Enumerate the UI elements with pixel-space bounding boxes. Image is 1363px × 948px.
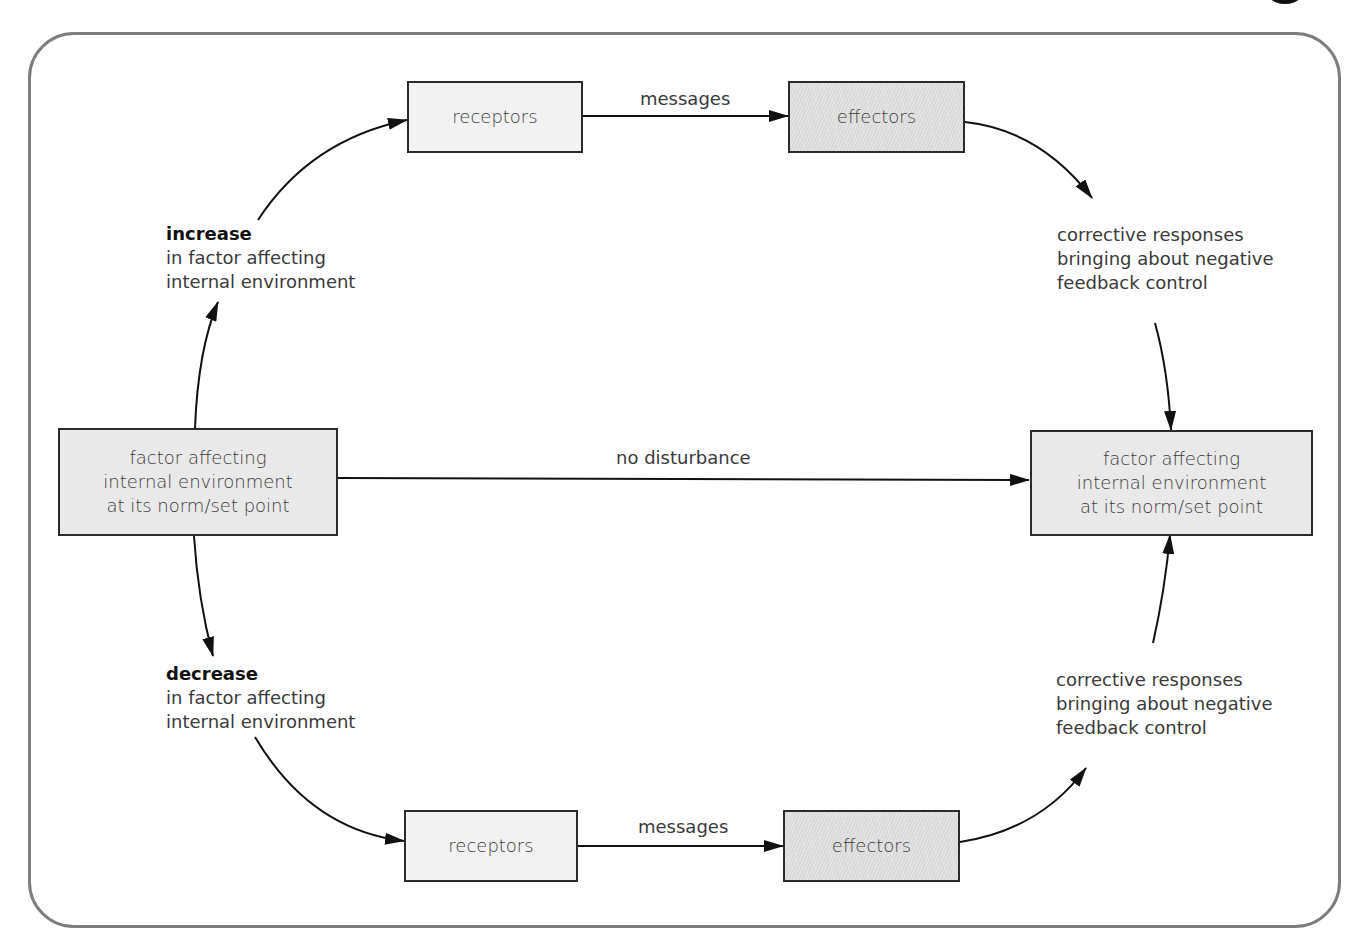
- end-box-line: internal environment: [1077, 471, 1266, 495]
- decrease-line: in factor affecting: [166, 686, 355, 710]
- corrective-response-bottom: corrective responses bringing about nega…: [1056, 668, 1273, 740]
- effectors-label-top: effectors: [837, 105, 916, 129]
- end-box-line: at its norm/set point: [1077, 495, 1266, 519]
- arrow-no-disturbance: [338, 478, 1029, 480]
- arrow-start-to-increase: [195, 302, 218, 428]
- start-box-line: factor affecting: [103, 446, 292, 470]
- decrease-heading: decrease: [166, 662, 355, 686]
- response-line: corrective responses: [1056, 668, 1273, 692]
- no-disturbance-label: no disturbance: [616, 446, 751, 470]
- arrow-decrease-to-receptors: [255, 737, 404, 841]
- effectors-box-top: effectors: [788, 81, 965, 153]
- start-box-line: at its norm/set point: [103, 494, 292, 518]
- messages-label-top: messages: [640, 87, 730, 111]
- corrective-response-top: corrective responses bringing about nega…: [1057, 223, 1274, 295]
- receptors-box-top: receptors: [407, 81, 583, 153]
- end-box-line: factor affecting: [1077, 447, 1266, 471]
- response-line: feedback control: [1057, 271, 1274, 295]
- arrow-response-to-end-bottom: [1153, 535, 1170, 643]
- increase-line: internal environment: [166, 270, 355, 294]
- response-line: bringing about negative: [1056, 692, 1273, 716]
- receptors-label-top: receptors: [452, 105, 537, 129]
- decrease-line: internal environment: [166, 710, 355, 734]
- effectors-label-bottom: effectors: [832, 834, 911, 858]
- arrow-response-to-end-top: [1155, 323, 1171, 430]
- increase-heading: increase: [166, 222, 355, 246]
- arrow-effectors-to-response-bottom: [960, 768, 1086, 842]
- response-line: corrective responses: [1057, 223, 1274, 247]
- receptors-box-bottom: receptors: [404, 810, 578, 882]
- response-line: feedback control: [1056, 716, 1273, 740]
- increase-label: increase in factor affecting internal en…: [166, 222, 355, 294]
- start-factor-box: factor affecting internal environment at…: [58, 428, 338, 536]
- effectors-box-bottom: effectors: [783, 810, 960, 882]
- arrow-increase-to-receptors: [258, 120, 407, 220]
- arrow-start-to-decrease: [194, 536, 213, 656]
- start-box-line: internal environment: [103, 470, 292, 494]
- messages-label-bottom: messages: [638, 815, 728, 839]
- arrow-effectors-to-response-top: [965, 122, 1092, 198]
- end-factor-box: factor affecting internal environment at…: [1030, 430, 1313, 536]
- response-line: bringing about negative: [1057, 247, 1274, 271]
- increase-line: in factor affecting: [166, 246, 355, 270]
- decrease-label: decrease in factor affecting internal en…: [166, 662, 355, 734]
- receptors-label-bottom: receptors: [448, 834, 533, 858]
